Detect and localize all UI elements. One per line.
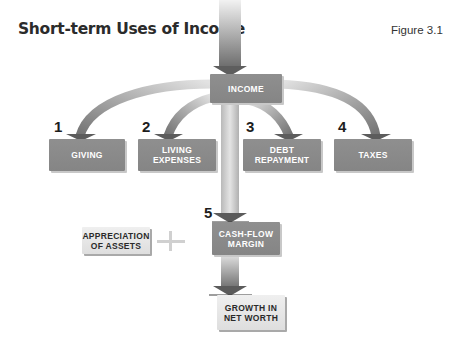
debt-repayment-node: DEBT REPAYMENT <box>243 139 321 171</box>
growth-label-line1: GROWTH IN <box>225 303 277 313</box>
giving-node: GIVING <box>49 139 125 171</box>
growth-label-line2: NET WORTH <box>224 313 278 323</box>
living-expenses-node: LIVING EXPENSES <box>138 139 216 171</box>
appreciation-label-line1: APPRECIATION <box>82 231 149 241</box>
appreciation-label-line2: OF ASSETS <box>91 241 142 251</box>
arrow-to-growth-in-net-worth <box>209 256 252 296</box>
growth-in-net-worth-node: GROWTH IN NET WORTH <box>217 295 285 330</box>
income-label: INCOME <box>228 84 264 94</box>
arrow-to-living-expenses <box>168 97 214 136</box>
living-expenses-label-line1: LIVING <box>162 145 192 155</box>
income-input-arrow <box>213 0 247 76</box>
taxes-node: TAXES <box>334 139 412 171</box>
step-number-3: 3 <box>246 118 254 135</box>
giving-label: GIVING <box>71 150 103 160</box>
step-number-1: 1 <box>54 118 62 135</box>
debt-repayment-label-line1: DEBT <box>270 145 294 155</box>
appreciation-of-assets-node: APPRECIATION OF ASSETS <box>82 227 150 254</box>
plus-icon <box>157 231 185 251</box>
step-number-5: 5 <box>204 204 212 221</box>
cash-flow-margin-node: CASH-FLOW MARGIN <box>212 222 280 255</box>
step-number-2: 2 <box>142 118 150 135</box>
living-expenses-label-line2: EXPENSES <box>153 155 201 165</box>
taxes-label: TAXES <box>358 150 387 160</box>
cash-flow-label-line1: CASH-FLOW <box>219 229 274 239</box>
step-number-4: 4 <box>338 118 346 135</box>
cash-flow-label-line2: MARGIN <box>228 239 264 249</box>
arrow-to-taxes <box>278 84 376 136</box>
income-node: INCOME <box>210 74 282 103</box>
debt-repayment-label-line2: REPAYMENT <box>255 155 310 165</box>
